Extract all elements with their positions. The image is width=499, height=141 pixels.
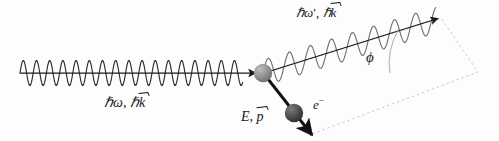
- scattering-angle-arc: [389, 28, 399, 73]
- scattered-omega: ω: [304, 5, 313, 20]
- electron-particle-label: e−: [313, 97, 324, 111]
- scattering-angle-label: ϕ: [366, 50, 374, 65]
- incident-comma: ,: [123, 95, 127, 110]
- scattered-photon-label: ℏω′, ℏk: [296, 6, 336, 19]
- scattered-wavevector-k: k: [331, 6, 337, 19]
- electron-momentum-p: p: [257, 110, 264, 124]
- recoil-electron-arrow: [264, 74, 312, 135]
- incident-hbar-2: ℏ: [130, 95, 139, 110]
- electron-energy-momentum-label: E, p: [241, 110, 264, 124]
- electron-momentum-comma: ,: [250, 109, 254, 124]
- electron-charge-sign: −: [319, 96, 324, 106]
- scattered-photon-wave: [263, 8, 436, 82]
- scattered-photon-arrow: [264, 19, 438, 74]
- electron-sphere: [285, 104, 303, 122]
- incident-photon-label: ℏω, ℏk: [104, 96, 145, 110]
- incident-omega: ω: [113, 95, 123, 110]
- incident-wavevector-k: k: [139, 96, 145, 110]
- incident-hbar: ℏ: [104, 95, 113, 110]
- scattered-hbar-2: ℏ: [323, 5, 331, 20]
- scattered-comma: ,: [316, 5, 319, 20]
- compton-scattering-figure: ℏω, ℏk ℏω′, ℏk E, p e− ϕ: [0, 0, 499, 141]
- electron-energy-E: E: [241, 109, 250, 124]
- scattering-vertex-sphere: [254, 64, 272, 82]
- scattered-hbar: ℏ: [296, 5, 304, 20]
